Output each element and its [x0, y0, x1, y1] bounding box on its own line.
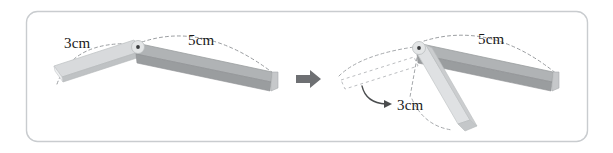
pivot-dot-left	[136, 45, 140, 49]
label-3cm-left: 3cm	[64, 35, 91, 51]
folding-ruler-figure: 3cm 5cm	[0, 0, 613, 153]
figure-container: 3cm 5cm	[0, 0, 613, 153]
label-3cm-right: 3cm	[397, 97, 424, 113]
label-5cm-left: 5cm	[188, 32, 215, 48]
pivot-dot-right	[417, 46, 421, 50]
arm-5cm-right-endcap	[552, 72, 559, 91]
label-5cm-right: 5cm	[478, 31, 505, 47]
arm-5cm-left-endcap	[271, 72, 278, 91]
